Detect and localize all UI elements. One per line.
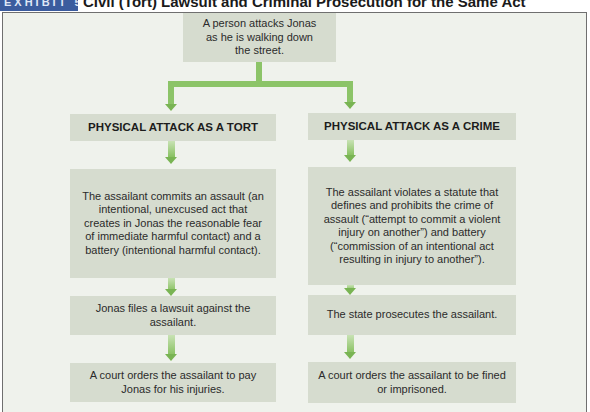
- arrow-down-icon: [344, 102, 356, 109]
- branch-right-drop: [347, 81, 353, 102]
- tort-heading: PHYSICAL ATTACK AS A TORT: [88, 121, 258, 135]
- tort-step-3-text: A court orders the assailant to pay Jona…: [80, 369, 266, 396]
- crime-step-1-text: The assailant violates a statute that de…: [320, 186, 504, 267]
- arrow-down-icon: [165, 157, 177, 164]
- crime-step-2-text: The state prosecutes the assailant.: [327, 308, 498, 322]
- branch-connector-bar: [168, 81, 353, 87]
- tort-step-3-box: A court orders the assailant to pay Jona…: [70, 363, 276, 402]
- crime-step-3-box: A court orders the assailant to be fined…: [308, 362, 516, 403]
- crime-heading-box: PHYSICAL ATTACK AS A CRIME: [308, 113, 516, 140]
- exhibit-title: Civil (Tort) Lawsuit and Criminal Prosec…: [83, 0, 526, 12]
- arrow-down-icon: [165, 354, 177, 361]
- exhibit-label: EXHIBIT 5-2: [0, 0, 78, 11]
- tort-step-2-text: Jonas files a lawsuit against the assail…: [80, 302, 266, 329]
- crime-step-2-box: The state prosecutes the assailant.: [308, 295, 516, 335]
- arrow-down-icon: [344, 352, 356, 359]
- arrow-down-icon: [165, 104, 177, 111]
- arrow-stem: [347, 335, 354, 353]
- arrow-stem: [168, 141, 175, 157]
- crime-step-3-text: A court orders the assailant to be fined…: [318, 369, 506, 396]
- arrow-down-icon: [165, 289, 177, 296]
- tort-step-1-box: The assailant commits an assault (an int…: [70, 169, 276, 278]
- crime-heading: PHYSICAL ATTACK AS A CRIME: [324, 120, 500, 134]
- crime-step-1-box: The assailant violates a statute that de…: [308, 167, 516, 285]
- arrow-down-icon: [344, 288, 356, 295]
- exhibit-header: EXHIBIT 5-2 Civil (Tort) Lawsuit and Cri…: [0, 0, 590, 11]
- root-connector-stem: [256, 62, 262, 82]
- tort-step-1-text: The assailant commits an assault (an int…: [82, 190, 264, 258]
- tort-step-2-box: Jonas files a lawsuit against the assail…: [70, 296, 276, 335]
- arrow-stem: [168, 335, 175, 355]
- branch-left-drop: [168, 81, 174, 104]
- arrow-stem: [347, 140, 354, 155]
- root-event-text: A person attacks Jonas as he is walking …: [197, 17, 322, 58]
- root-event-box: A person attacks Jonas as he is walking …: [183, 13, 336, 62]
- tort-heading-box: PHYSICAL ATTACK AS A TORT: [70, 114, 276, 141]
- arrow-down-icon: [344, 155, 356, 162]
